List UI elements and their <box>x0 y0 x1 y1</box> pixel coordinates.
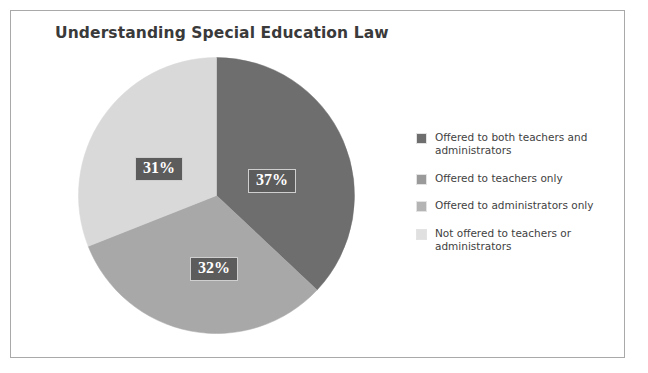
legend-item-0: Offered to both teachers and administrat… <box>416 131 612 158</box>
legend-label-1: Offered to teachers only <box>435 172 563 185</box>
legend-swatch-icon-3 <box>416 229 427 240</box>
pie-slice-label-0: 37% <box>248 169 296 193</box>
legend-item-3: Not offered to teachers or administrator… <box>416 227 612 254</box>
legend-swatch-icon-1 <box>416 174 427 185</box>
chart-title: Understanding Special Education Law <box>55 24 385 42</box>
legend-item-1: Offered to teachers only <box>416 172 612 185</box>
pie-chart: 37% 32% 31% <box>78 57 355 334</box>
legend-swatch-icon-2 <box>416 201 427 212</box>
pie-slice-group <box>78 58 354 334</box>
chart-legend: Offered to both teachers and administrat… <box>416 131 612 268</box>
pie-slice-label-2: 31% <box>135 157 183 181</box>
legend-label-0: Offered to both teachers and administrat… <box>435 131 607 158</box>
legend-swatch-icon-0 <box>416 133 427 144</box>
pie-svg <box>78 57 355 334</box>
legend-item-2: Offered to administrators only <box>416 199 612 212</box>
chart-figure: Understanding Special Education Law 37% … <box>0 0 648 373</box>
legend-label-2: Offered to administrators only <box>435 199 593 212</box>
pie-slice-label-1: 32% <box>190 257 238 281</box>
legend-label-3: Not offered to teachers or administrator… <box>435 227 607 254</box>
